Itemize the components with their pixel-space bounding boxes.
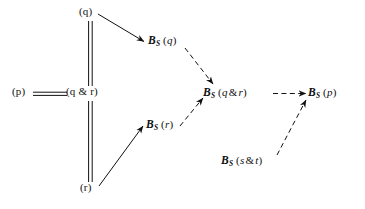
- edge-r-to-bs-r: [99, 126, 143, 186]
- node-p: (p): [12, 86, 25, 97]
- belief-operator-symbol: B: [221, 154, 229, 166]
- edge-q-and-r-equals-r: [89, 101, 93, 182]
- edge-q-equals-q-and-r: [89, 21, 93, 86]
- edge-p-equals-q-and-r: [33, 92, 67, 95]
- edge-bs-q-to-bs-q-and-r: [185, 48, 213, 84]
- belief-operator-symbol: B: [203, 86, 211, 98]
- belief-operator-subscript: S: [211, 91, 215, 100]
- node-bs-q-and-r-close: ): [243, 86, 247, 98]
- node-bs-p-close: ): [333, 86, 337, 98]
- node-bs-r-close: ): [169, 118, 173, 130]
- belief-operator-subscript: S: [154, 123, 158, 132]
- node-bs-q-and-r-left: q: [222, 86, 228, 98]
- belief-operator-symbol: B: [308, 86, 316, 98]
- node-q: (q): [79, 6, 92, 17]
- belief-operator-symbol: B: [148, 34, 156, 46]
- node-bs-q: BS(q): [148, 35, 177, 47]
- diagram-edges-layer: [0, 0, 365, 209]
- node-q-text: (q): [79, 5, 92, 17]
- node-r: (r): [80, 182, 92, 193]
- node-bs-s-and-t: BS(s&t): [221, 155, 262, 167]
- conjunction-operator: &: [244, 154, 255, 166]
- node-bs-q-and-r: BS(q&r): [203, 87, 247, 99]
- edge-bs-s-and-t-to-bs-p: [277, 100, 306, 155]
- node-r-text: (r): [80, 181, 92, 193]
- node-p-text: (p): [12, 85, 25, 97]
- edge-q-to-bs-q: [98, 14, 144, 42]
- node-q-and-r: (q & r): [66, 86, 98, 97]
- belief-operator-subscript: S: [229, 159, 233, 168]
- conjunction-operator: &: [228, 86, 239, 98]
- belief-operator-symbol: B: [146, 118, 154, 130]
- belief-operator-subscript: S: [156, 39, 160, 48]
- node-bs-q-close: ): [173, 34, 177, 46]
- node-q-and-r-text: (q & r): [66, 85, 98, 97]
- diagram-canvas: (p) (q) (q & r) (r) BS(q) BS(r) BS(q&r) …: [0, 0, 365, 209]
- node-bs-s-and-t-close: ): [258, 154, 262, 166]
- edge-bs-r-to-bs-q-and-r: [180, 98, 203, 126]
- node-bs-r: BS(r): [146, 119, 173, 131]
- belief-operator-subscript: S: [316, 91, 320, 100]
- node-bs-p: BS(p): [308, 87, 337, 99]
